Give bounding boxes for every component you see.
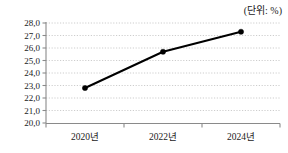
x-tick-label-2020: 2020년: [71, 132, 99, 142]
y-tick-label-23: 23,0: [24, 81, 40, 91]
y-tick-label-27: 27,0: [24, 31, 40, 41]
y-tick-label-20: 20,0: [24, 118, 40, 128]
data-series-group: [82, 29, 243, 90]
data-point-2020: [82, 85, 87, 90]
y-tick-label-21: 21,0: [24, 106, 40, 116]
x-axis-tick-labels: 2020년 2022년 2024년: [71, 132, 255, 142]
x-tick-label-2024: 2024년: [227, 132, 255, 142]
x-axis: [46, 124, 280, 128]
y-tick-label-24: 24,0: [24, 68, 40, 78]
x-tick-label-2022: 2022년: [149, 132, 177, 142]
y-tick-label-25: 25,0: [24, 56, 40, 66]
y-tick-label-22: 22,0: [24, 93, 40, 103]
gridlines-group: [46, 23, 280, 111]
data-point-2024: [238, 29, 243, 34]
y-axis: [43, 22, 47, 124]
y-tick-label-28: 28,0: [24, 18, 40, 28]
chart-canvas: 28,0 27,0 26,0 25,0 24,0 23,0 22,0 21,0 …: [0, 0, 288, 153]
y-axis-tick-labels: 28,0 27,0 26,0 25,0 24,0 23,0 22,0 21,0 …: [24, 18, 40, 128]
data-point-2022: [160, 49, 165, 54]
series-line-path: [85, 32, 241, 88]
line-chart-figure: (단위: %) 28,0 27,0 26,0: [0, 0, 288, 153]
y-tick-label-26: 26,0: [24, 43, 40, 53]
